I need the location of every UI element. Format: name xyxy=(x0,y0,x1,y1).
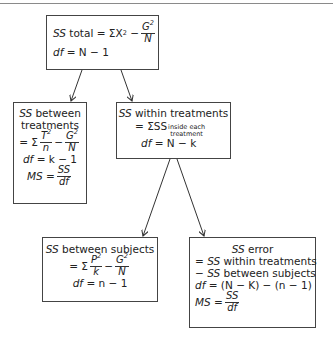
frac-num: G xyxy=(142,21,150,32)
frac-num-exp: 2 xyxy=(124,252,128,260)
arrow-within-to-error xyxy=(177,159,204,236)
node-ss-error: SS error = SS within treatments − SS bet… xyxy=(189,237,316,328)
eq-sigma: = Σ xyxy=(19,136,38,148)
frac-den: N xyxy=(117,267,126,278)
frac-num-exp: 2 xyxy=(74,128,78,136)
error-line-within: = SS within treatments xyxy=(195,255,310,267)
ms-eq: = xyxy=(46,170,55,182)
node-ss-within-treatments: SS within treatments = ΣSS inside each t… xyxy=(116,102,231,159)
arrow-total-to-within-treatments xyxy=(121,70,132,101)
fraction-t2-over-n: T2 n xyxy=(40,131,52,153)
ss-label: SS xyxy=(207,255,220,267)
ss-label: SS xyxy=(119,107,132,119)
frac-den: N xyxy=(143,34,152,45)
df-label: df xyxy=(23,153,33,165)
within-treatments-formula: = ΣSS inside each treatment xyxy=(121,119,226,133)
fraction-ss-over-df: SS df xyxy=(57,165,71,187)
node-ss-total: SS total = ΣX2 − G2 N df = N − 1 xyxy=(46,15,159,70)
title-line-1: between xyxy=(35,107,80,119)
arrow-within-to-between-subjects xyxy=(143,159,170,236)
df-expr: = n − 1 xyxy=(86,277,127,289)
between-treatments-formula: = Σ T2 n − G2 N xyxy=(17,131,83,153)
between-subjects-df: df = n − 1 xyxy=(47,277,153,289)
fraction-g2-over-n: G2 N xyxy=(65,131,79,153)
between-subjects-formula: = Σ P2 k − G2 N xyxy=(47,255,153,277)
frac-den: k xyxy=(92,267,100,278)
ms-label: MS xyxy=(195,296,211,308)
fraction-p2-over-k: P2 k xyxy=(90,255,102,277)
minus-sign: − xyxy=(130,27,139,39)
df-expr: = N − 1 xyxy=(67,46,109,58)
within-treatments-df: df = N − k xyxy=(121,137,226,149)
ms-label: MS xyxy=(27,170,43,182)
fraction-g2-over-n: G2 N xyxy=(115,255,129,277)
formula-prefix: = ΣX xyxy=(97,27,123,39)
minus-sign: − xyxy=(195,267,204,279)
df-label: df xyxy=(53,46,63,58)
minus-sign: − xyxy=(104,260,113,272)
ss-total-formula: SS total = ΣX2 − G2 N xyxy=(53,22,152,44)
eq-sigma-ss: = ΣSS xyxy=(135,120,167,132)
ss-label: SS xyxy=(232,243,245,255)
ss-total-df: df = N − 1 xyxy=(53,46,152,58)
minus-sign: − xyxy=(54,136,63,148)
fraction-ss-over-df: SS df xyxy=(225,291,239,313)
df-expr: = N − k xyxy=(155,137,197,149)
between-treatments-df: df = k − 1 xyxy=(17,153,83,165)
frac-num: G xyxy=(66,130,74,141)
ss-label: SS xyxy=(19,107,32,119)
fraction-g2-over-n: G2 N xyxy=(141,22,155,44)
ss-label: SS xyxy=(207,267,220,279)
df-label: df xyxy=(73,277,83,289)
within-text: within treatments xyxy=(223,255,316,267)
df-label: df xyxy=(195,279,205,291)
ss-label: SS xyxy=(53,27,66,39)
title-line-1: within treatments xyxy=(135,107,228,119)
frac-den: N xyxy=(67,143,76,154)
frac-num-exp: 2 xyxy=(97,252,101,260)
between-subjects-text: between subjects xyxy=(223,267,315,279)
error-df: df = (N − K) − (n − 1) xyxy=(195,279,310,291)
eq-sign: = xyxy=(195,255,204,267)
error-ms: MS = SS df xyxy=(195,291,310,313)
eq-sigma: = Σ xyxy=(69,260,88,272)
error-title: SS error xyxy=(195,243,310,255)
subscript-inside-each-treatment: inside each treatment xyxy=(168,124,205,138)
df-expr: = k − 1 xyxy=(37,153,77,165)
frac-den: df xyxy=(226,303,238,314)
df-label: df xyxy=(141,137,151,149)
frac-num-exp: 2 xyxy=(47,128,51,136)
ms-eq: = xyxy=(214,296,223,308)
title-line-1: error xyxy=(248,243,273,255)
frac-den: n xyxy=(42,143,50,154)
arrow-total-to-between-treatments xyxy=(71,70,82,101)
frac-num: SS xyxy=(57,165,71,177)
within-treatments-title: SS within treatments xyxy=(121,107,226,119)
ss-name: total xyxy=(69,27,93,39)
ss-label: SS xyxy=(46,243,59,255)
title-line-1: between subjects xyxy=(62,243,154,255)
subscript-line-2: treatment xyxy=(170,131,203,138)
between-treatments-ms: MS = SS df xyxy=(17,165,83,187)
node-ss-between-subjects: SS between subjects = Σ P2 k − G2 N df =… xyxy=(42,237,158,302)
frac-num-exp: 2 xyxy=(150,19,154,27)
df-expr: = (N − K) − (n − 1) xyxy=(209,279,312,291)
between-treatments-title-1: SS between xyxy=(17,107,83,119)
node-ss-between-treatments: SS between treatments = Σ T2 n − G2 N df… xyxy=(13,102,87,204)
frac-den: df xyxy=(58,177,70,188)
frac-num: G xyxy=(116,254,124,265)
error-line-between-subjects: − SS between subjects xyxy=(195,267,310,279)
